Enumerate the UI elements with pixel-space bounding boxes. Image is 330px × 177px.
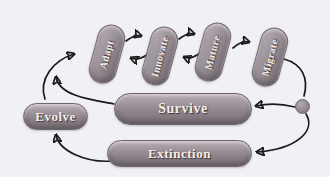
arrow-evolve-to-adapt <box>43 54 74 99</box>
node-evolve: Evolve <box>23 103 88 130</box>
arrow-extinction-to-evolve <box>56 135 112 161</box>
node-mature: Mature <box>192 19 235 84</box>
node-adapt: Adapt <box>86 21 129 86</box>
node-survive-label: Survive <box>158 101 207 117</box>
node-adapt-label: Adapt <box>98 38 116 69</box>
node-evolve-label: Evolve <box>35 109 76 125</box>
arrow-migrate-to-choice-node <box>284 59 306 96</box>
node-extinction-label: Extinction <box>148 146 211 162</box>
node-survive: Survive <box>114 93 252 125</box>
arrow-choice-node-to-survive <box>256 104 295 107</box>
node-migrate-label: Migrate <box>260 37 280 76</box>
node-innovate-label: Innovate <box>149 34 170 77</box>
node-extinction: Extinction <box>107 140 252 167</box>
arrow-adapt-to-innovate <box>126 36 141 41</box>
diagram-canvas: Adapt Innovate Mature Migrate Evolve Sur… <box>0 0 330 177</box>
arrow-choice-node-to-extinction <box>257 114 309 152</box>
node-innovate: Innovate <box>139 23 182 88</box>
node-mature-label: Mature <box>203 34 223 71</box>
arrow-mature-to-migrate <box>233 42 249 48</box>
node-migrate: Migrate <box>249 24 292 89</box>
choice-node-circle <box>295 99 310 114</box>
arrow-innovate-to-mature <box>179 34 194 39</box>
